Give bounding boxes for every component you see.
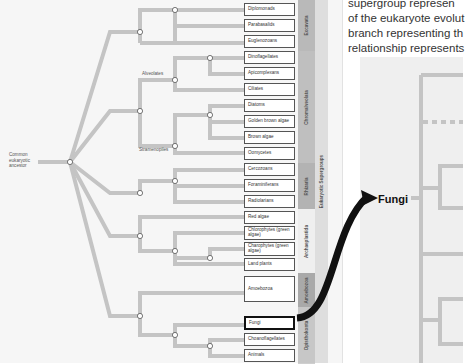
fungi-zoom-label: Fungi [378, 193, 408, 205]
connector-arrow [297, 196, 368, 318]
